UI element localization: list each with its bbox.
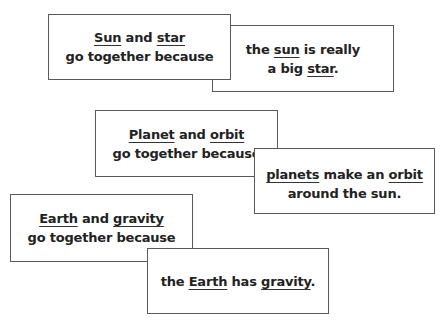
card-line: around the sun. [288,184,401,203]
card-line: Earth and gravity [39,209,164,228]
keyword: sun [274,42,300,57]
text: has [227,274,261,289]
text: a big [268,61,308,76]
keyword: gravity [261,274,311,289]
text: is really [300,42,361,57]
keyword: Earth [39,211,78,226]
card-line: planets make an orbit [266,165,423,184]
keyword: star [157,30,185,45]
connector-text: and [175,127,210,142]
text: . [311,274,316,289]
card-line: Planet and orbit [129,125,245,144]
keyword: Planet [129,127,175,142]
keyword: gravity [113,211,164,226]
keyword: Earth [189,274,228,289]
keyword: planets [266,167,319,182]
answer-card-earth-gravity: the Earth has gravity. [147,248,329,314]
answer-card-planet-orbit: planets make an orbit around the sun. [254,148,435,214]
prompt-card-planet-orbit: Planet and orbit go together because [95,110,278,177]
card-line: a big star. [268,59,339,78]
keyword: orbit [389,167,423,182]
card-line: the sun is really [246,40,360,59]
text: the [246,42,274,57]
connector-text: and [121,30,156,45]
connector-text: and [78,211,113,226]
keyword: Sun [94,30,121,45]
card-line: go together because [28,228,176,247]
card-line: the Earth has gravity. [161,272,316,291]
card-line: Sun and star [94,28,185,47]
card-line: go together because [66,47,214,66]
text: make an [319,167,388,182]
card-line: go together because [113,144,261,163]
answer-card-sun-star: the sun is really a big star. [212,25,394,92]
text: . [334,61,339,76]
keyword: star [307,61,333,76]
text: the [161,274,189,289]
keyword: orbit [210,127,244,142]
prompt-card-sun-star: Sun and star go together because [48,14,231,80]
